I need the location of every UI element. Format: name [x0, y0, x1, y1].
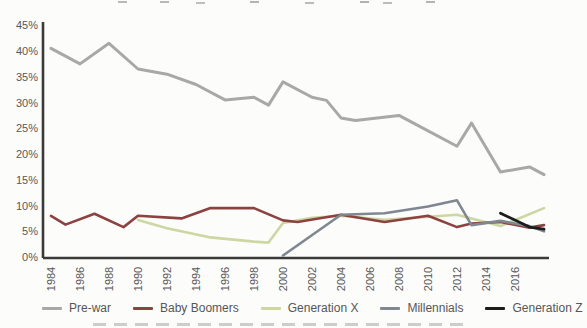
y-tick-label: 15%: [2, 173, 38, 187]
x-tick-label: 1984: [45, 267, 57, 291]
x-tick-label: 1994: [190, 267, 202, 291]
legend-label: Pre-war: [69, 301, 111, 315]
x-tick-label: 1992: [161, 267, 173, 291]
generation-x-line-swatch-icon: [261, 307, 281, 310]
legend-item-pre-war: Pre-war: [42, 301, 111, 315]
x-tick-label: 1986: [74, 267, 86, 291]
x-tick-label: 1988: [103, 267, 115, 291]
y-tick-label: 10%: [2, 199, 38, 213]
legend-item-baby-boomers: Baby Boomers: [133, 301, 239, 315]
x-tick-label: 1998: [248, 267, 260, 291]
y-tick-label: 35%: [2, 70, 38, 84]
generation-z-line-swatch-icon: [485, 307, 505, 310]
y-tick-label: 0%: [2, 250, 38, 264]
x-tick-label: 2002: [306, 267, 318, 291]
y-tick-label: 25%: [2, 121, 38, 135]
millennials-line: [283, 200, 544, 255]
x-tick-label: 2016: [509, 267, 521, 291]
legend-item-millennials: Millennials: [380, 301, 463, 315]
x-tick-label: 2012: [451, 267, 463, 291]
x-tick-label: 1996: [219, 267, 231, 291]
y-tick-label: 5%: [2, 224, 38, 238]
x-tick-label: 2008: [393, 267, 405, 291]
x-tick-label: 2000: [277, 267, 289, 291]
x-tick-label: 1990: [132, 267, 144, 291]
legend-item-generation-x: Generation X: [261, 301, 359, 315]
pre-war-line: [51, 43, 544, 174]
legend-label: Baby Boomers: [160, 301, 239, 315]
y-tick-label: 40%: [2, 44, 38, 58]
legend-label: Millennials: [407, 301, 463, 315]
x-tick-label: 2010: [422, 267, 434, 291]
millennials-line-swatch-icon: [380, 307, 400, 310]
x-tick-label: 2014: [480, 267, 492, 291]
x-tick-label: 2004: [335, 267, 347, 291]
legend-label: Generation X: [288, 301, 359, 315]
legend-label: Generation Z: [512, 301, 582, 315]
legend-item-generation-z: Generation Z: [485, 301, 582, 315]
y-tick-label: 20%: [2, 147, 38, 161]
y-tick-label: 30%: [2, 96, 38, 110]
cropped-caption-remnant: [93, 323, 465, 326]
x-tick-label: 2006: [364, 267, 376, 291]
chart-legend: Pre-war Baby Boomers Generation X Millen…: [0, 299, 587, 317]
y-tick-label: 45%: [2, 18, 38, 32]
pre-war-line-swatch-icon: [42, 307, 62, 310]
baby-boomers-line-swatch-icon: [133, 307, 153, 310]
